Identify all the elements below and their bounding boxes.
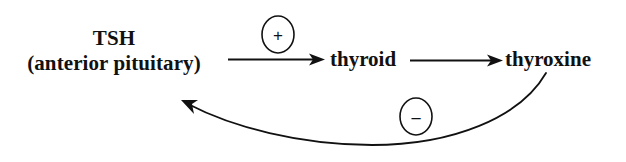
sign-minus-label: − [400, 109, 432, 128]
edge-thyroxine-to-tsh [181, 73, 546, 145]
edge-thyroid-to-thyroxine [410, 55, 503, 67]
feedback-loop-diagram: TSH (anterior pituitary) thyroid thyroxi… [0, 0, 626, 162]
edge-tsh-to-thyroid [228, 54, 325, 66]
edge-thyroxine-to-tsh-curve [188, 73, 546, 145]
connector-layer [0, 0, 626, 162]
sign-plus-label: + [262, 27, 294, 44]
